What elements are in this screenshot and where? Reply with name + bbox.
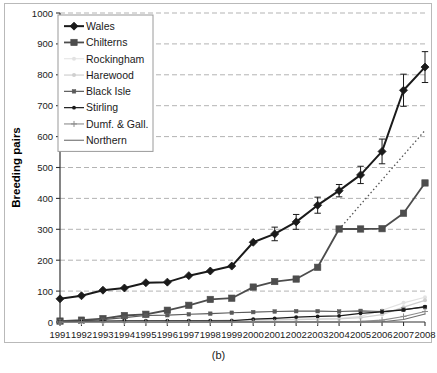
x-tick-label: 2002	[286, 329, 307, 340]
data-point-marker	[271, 230, 279, 238]
data-point-marker	[293, 276, 299, 282]
data-point-marker	[294, 315, 298, 319]
y-tick-label: 500	[37, 162, 53, 173]
data-point-marker	[294, 309, 298, 313]
x-tick-label: 1998	[200, 329, 221, 340]
x-tick-label: 2008	[414, 329, 435, 340]
data-point-marker	[185, 272, 193, 280]
data-point-marker	[272, 278, 278, 284]
legend-label: Stirling	[86, 101, 118, 113]
data-point-marker	[402, 301, 406, 305]
y-axis-label-text: Breeding pairs	[10, 127, 22, 208]
x-tick-label: 1995	[135, 329, 156, 340]
x-tick-label: 2007	[393, 329, 414, 340]
data-point-marker	[72, 106, 76, 110]
line-chart: 1991199219931994199519961997199819992000…	[0, 0, 437, 373]
data-point-marker	[273, 310, 277, 314]
series-chilterns	[57, 180, 428, 325]
y-tick-label: 900	[37, 38, 53, 49]
data-point-marker	[422, 180, 428, 186]
x-tick-label: 2000	[243, 329, 264, 340]
data-point-marker	[423, 298, 427, 302]
chart-legend: WalesChilternsRockinghamHarewoodBlack Is…	[58, 15, 153, 151]
figure-caption: (b)	[0, 349, 437, 361]
legend-label: Chilterns	[86, 36, 127, 48]
y-tick-label: 200	[37, 255, 53, 266]
data-point-marker	[72, 57, 76, 61]
x-tick-label: 2005	[350, 329, 371, 340]
legend-label: Harewood	[86, 69, 134, 81]
legend-label: Northern	[86, 134, 127, 146]
data-point-marker	[316, 309, 320, 313]
y-tick-label: 0	[48, 317, 53, 328]
y-tick-label: 800	[37, 69, 53, 80]
figure-container: 1991199219931994199519961997199819992000…	[0, 0, 437, 373]
data-point-marker	[56, 295, 64, 303]
y-axis-tick-labels: 01002003004005006007008009001000	[32, 8, 53, 328]
x-tick-label: 1997	[178, 329, 199, 340]
data-point-marker	[186, 302, 192, 308]
data-point-marker	[72, 90, 76, 94]
data-point-marker	[400, 210, 406, 216]
data-point-marker	[230, 311, 234, 315]
x-tick-label: 1991	[49, 329, 70, 340]
data-point-marker	[402, 308, 406, 312]
data-point-marker	[207, 296, 213, 302]
x-tick-label: 1996	[157, 329, 178, 340]
y-tick-label: 300	[37, 224, 53, 235]
x-tick-label: 1999	[221, 329, 242, 340]
y-tick-label: 600	[37, 131, 53, 142]
data-point-marker	[187, 312, 191, 316]
data-point-marker	[229, 295, 235, 301]
data-point-marker	[163, 278, 171, 286]
y-tick-label: 100	[37, 286, 53, 297]
legend-label: Dumf. & Gall.	[86, 118, 148, 130]
data-point-marker	[142, 279, 150, 287]
x-tick-label: 2004	[329, 329, 350, 340]
data-point-marker	[379, 225, 385, 231]
x-tick-label: 2006	[371, 329, 392, 340]
data-point-marker	[358, 318, 364, 324]
legend-label: Black Isle	[86, 85, 131, 97]
data-point-marker	[357, 226, 363, 232]
x-tick-label: 2001	[264, 329, 285, 340]
data-point-marker	[144, 314, 148, 318]
data-point-marker	[316, 315, 320, 319]
data-point-marker	[337, 314, 341, 318]
data-point-marker	[71, 39, 77, 45]
x-tick-label: 1993	[92, 329, 113, 340]
data-point-marker	[164, 307, 170, 313]
y-tick-label: 1000	[32, 8, 53, 19]
y-tick-label: 400	[37, 193, 53, 204]
x-tick-label: 2003	[307, 329, 328, 340]
data-point-marker	[250, 284, 256, 290]
x-tick-label: 1992	[71, 329, 92, 340]
data-point-marker	[166, 313, 170, 317]
legend-label: Rockingham	[86, 53, 145, 65]
y-axis-title: Breeding pairs	[10, 127, 22, 208]
data-point-marker	[72, 73, 76, 77]
x-axis-tick-labels: 1991199219931994199519961997199819992000…	[49, 329, 435, 340]
data-point-marker	[206, 267, 214, 275]
series-line	[60, 183, 425, 321]
data-point-marker	[314, 264, 320, 270]
data-point-marker	[251, 310, 255, 314]
data-point-marker	[359, 311, 363, 315]
legend-label: Wales	[86, 20, 115, 32]
data-point-marker	[77, 292, 85, 300]
data-point-marker	[380, 310, 384, 314]
data-point-marker	[208, 312, 212, 316]
data-point-marker	[337, 310, 341, 314]
y-tick-label: 700	[37, 100, 53, 111]
data-point-marker	[423, 305, 427, 309]
data-point-marker	[99, 286, 107, 294]
x-tick-label: 1994	[114, 329, 135, 340]
